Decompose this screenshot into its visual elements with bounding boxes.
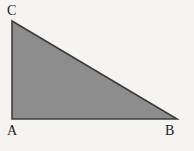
vertex-label-a: A [7,124,17,138]
triangle-figure: C A B [0,0,194,151]
vertex-label-c: C [7,4,16,18]
triangle-shape [12,21,177,119]
vertex-label-b: B [165,124,174,138]
